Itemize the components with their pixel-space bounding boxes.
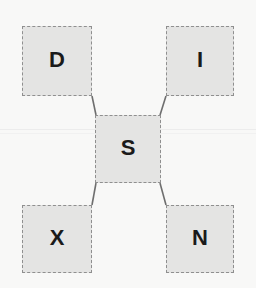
node-s[interactable]: S (95, 115, 161, 183)
edge-d-s (92, 96, 96, 115)
node-x-label: X (50, 227, 65, 249)
node-i[interactable]: I (166, 26, 234, 96)
node-n[interactable]: N (166, 205, 234, 273)
diagram-canvas: D I S X N (0, 0, 256, 288)
edge-i-s (160, 96, 166, 115)
node-i-label: I (197, 49, 203, 71)
edge-n-s (160, 183, 166, 205)
node-d-label: D (49, 49, 65, 71)
node-n-label: N (192, 227, 208, 249)
node-s-label: S (121, 137, 136, 159)
node-x[interactable]: X (22, 205, 92, 273)
edge-x-s (92, 183, 96, 205)
node-d[interactable]: D (22, 26, 92, 96)
